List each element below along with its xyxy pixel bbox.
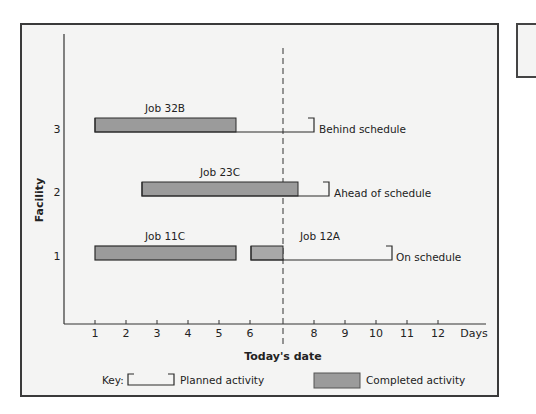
- job-label: Job 11C: [144, 230, 185, 242]
- x-tick-label: 9: [342, 327, 349, 340]
- x-tick-label: 4: [185, 327, 192, 340]
- status-label: Behind schedule: [319, 123, 406, 135]
- legend-planned-label: Planned activity: [180, 374, 264, 386]
- x-tick-label: 11: [400, 327, 414, 340]
- y-tick-label: 3: [54, 123, 61, 136]
- today-label: Today's date: [244, 350, 322, 363]
- job-12a-bar: [251, 246, 392, 260]
- y-axis-title: Facility: [33, 178, 46, 223]
- job-11c-bar: [95, 246, 236, 260]
- x-tick-label: 8: [311, 327, 318, 340]
- y-tick-label: 2: [54, 186, 61, 199]
- job-label: Job 12A: [299, 230, 341, 242]
- job-23c-bar: [142, 182, 329, 196]
- x-tick-label: 1: [92, 327, 99, 340]
- x-tick-label: 3: [154, 327, 161, 340]
- y-tick-label: 1: [54, 250, 61, 263]
- status-label: On schedule: [396, 251, 461, 263]
- job-32b-bar: [95, 118, 314, 132]
- x-axis-unit: Days: [460, 327, 488, 340]
- job-label: Job 23C: [199, 166, 240, 178]
- status-label: Ahead of schedule: [334, 187, 431, 199]
- legend-completed-label: Completed activity: [366, 374, 465, 386]
- legend-key-label: Key:: [102, 374, 124, 386]
- planned-swatch: [128, 374, 174, 385]
- job-label: Job 32B: [144, 102, 185, 114]
- x-tick-label: 5: [216, 327, 223, 340]
- legend: Key: Planned activity Completed activity: [102, 373, 465, 388]
- completed-swatch: [314, 373, 360, 388]
- x-tick-label: 2: [123, 327, 130, 340]
- x-tick-label: 6: [247, 327, 254, 340]
- x-tick-label: 12: [431, 327, 445, 340]
- x-tick-label: 10: [369, 327, 383, 340]
